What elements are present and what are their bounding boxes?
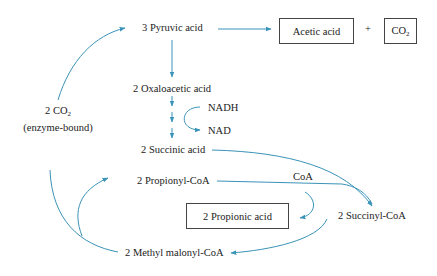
node-coa: CoA bbox=[293, 172, 313, 183]
node-propionic-acid: 2 Propionic acid bbox=[203, 211, 272, 222]
node-pyruvic-acid: 3 Pyruvic acid bbox=[142, 23, 203, 34]
node-methyl-malonyl-coa: 2 Methyl malonyl-CoA bbox=[125, 248, 224, 259]
arrow-methylmalonyl-to-co2 bbox=[50, 170, 118, 252]
node-co2-enzyme-bound: 2 CO2 (enzyme-bound) bbox=[18, 104, 98, 134]
node-acetic-acid: Acetic acid bbox=[293, 26, 341, 37]
node-succinyl-coa: 2 Succinyl-CoA bbox=[338, 211, 406, 222]
node-nad: NAD bbox=[208, 126, 231, 137]
node-oxaloacetic-acid: 2 Oxaloacetic acid bbox=[133, 84, 211, 95]
arrow-methylmalonyl-to-propionyl bbox=[78, 178, 108, 236]
node-nadh: NADH bbox=[208, 103, 238, 114]
co2-label: 2 CO2 bbox=[18, 104, 98, 121]
arrow-co2-to-pyruvic bbox=[58, 28, 125, 100]
arrow-coa-to-propionic bbox=[300, 192, 314, 218]
node-succinic-acid: 2 Succinic acid bbox=[141, 145, 205, 156]
node-acetic-acid-box: Acetic acid bbox=[279, 18, 354, 44]
node-propionic-acid-box: 2 Propionic acid bbox=[186, 203, 289, 229]
pathway-arrows bbox=[0, 0, 437, 276]
enzyme-bound-label: (enzyme-bound) bbox=[18, 121, 98, 134]
plus-sign: + bbox=[365, 24, 371, 35]
arrow-succinic-to-succinyl bbox=[212, 150, 372, 206]
node-co2-box: CO2 bbox=[384, 18, 417, 44]
arrow-propionyl-coa-transfer bbox=[217, 181, 372, 204]
node-co2: CO2 bbox=[391, 25, 409, 38]
arrow-nadh-to-nad bbox=[184, 107, 200, 130]
node-propionyl-coa: 2 Propionyl-CoA bbox=[137, 176, 210, 187]
